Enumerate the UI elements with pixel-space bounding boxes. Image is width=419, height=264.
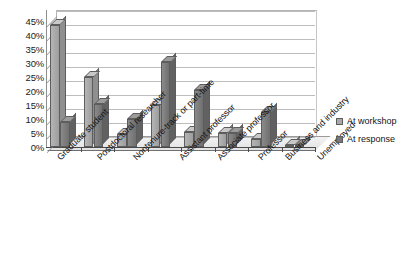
bar-chart: 0%5%10%15%20%25%30%35%40%45% Graduate st…: [0, 0, 419, 264]
legend-label: At response: [347, 134, 395, 144]
legend-item: At response: [336, 130, 418, 148]
legend-swatch-icon: [336, 118, 343, 125]
chart-legend: At workshopAt response: [336, 112, 418, 148]
legend-swatch-icon: [336, 136, 343, 143]
legend-item: At workshop: [336, 112, 418, 130]
legend-label: At workshop: [347, 116, 397, 126]
x-axis-category-label: Postdoctoral researcher: [95, 89, 168, 162]
